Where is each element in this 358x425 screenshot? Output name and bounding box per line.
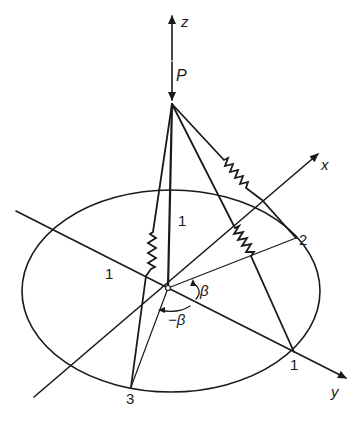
left-member-label: 1 [105,266,113,281]
node-3-label: 3 [126,391,134,406]
origin-node [166,286,171,291]
vertical-member-label: 1 [178,213,186,228]
radial-line-3 [131,288,168,387]
z-axis-label: z [181,14,189,29]
neg-beta-label: −β [168,312,185,327]
beta-label: β [200,283,209,298]
member-to-node-1 [172,104,294,352]
spring-tripod-diagram: z P x y 1 1 2 1 3 β −β [0,0,358,425]
member-to-node-3 [131,104,172,387]
radial-line-2 [168,238,296,288]
node-1-label: 1 [290,357,298,372]
beta-arrowhead [190,279,196,286]
base-ellipse [22,190,320,392]
y-axis-label: y [331,384,339,399]
x-axis-label: x [321,157,329,172]
load-label: P [176,68,187,84]
member-to-node-2 [172,104,296,238]
node-2-label: 2 [299,232,307,247]
